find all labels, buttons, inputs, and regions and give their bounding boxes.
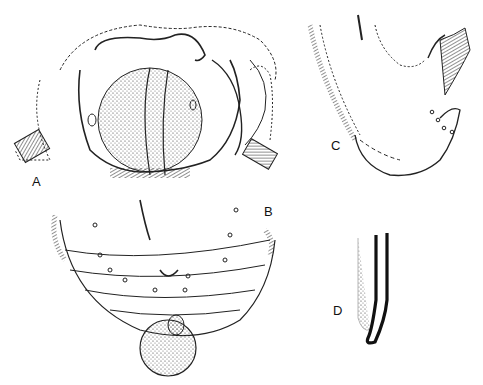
figure: A B C D [0,0,483,385]
panel-label-a: A [32,174,41,189]
panel-b-drawing [54,200,275,376]
panel-a-drawing [14,25,277,178]
panel-label-b: B [264,204,273,219]
panel-label-d: D [333,303,342,318]
panel-label-c: C [331,138,340,153]
line-drawing [0,0,483,385]
panel-d-drawing [358,233,387,343]
